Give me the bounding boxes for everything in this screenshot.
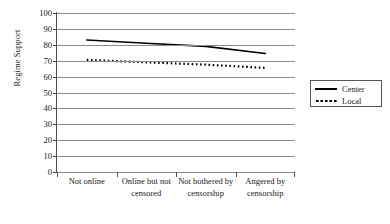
y-axis-tick-label: 90 [26,25,52,34]
legend-item: Center [314,83,381,94]
y-axis-tick [53,93,57,94]
x-axis-tick-label: Not bothered by censorship [176,176,236,199]
gridline [57,13,295,14]
x-axis-tick-label: Online but not censored [117,176,177,199]
y-axis-tick [53,45,57,46]
gridline [57,61,295,62]
y-axis-tick [53,61,57,62]
gridline [57,140,295,141]
y-axis-tick [53,124,57,125]
y-axis-tick-label: 30 [26,120,52,129]
legend-label: Local [338,96,361,106]
y-axis-tick [53,140,57,141]
y-axis-tick [53,13,57,14]
plot-area [57,13,295,172]
y-axis-tick-label: 20 [26,136,52,145]
y-axis-tick [53,156,57,157]
gridline [57,124,295,125]
series-line-center [87,40,266,54]
gridline [57,93,295,94]
chart-legend: CenterLocal [310,80,382,107]
x-axis-tick-label: Not online [57,176,117,188]
x-axis-tick-labels: Not onlineOnline but not censoredNot bot… [57,176,295,222]
y-axis-tick-label: 60 [26,72,52,81]
y-axis-title: Regime Support [12,0,22,118]
gridline [57,156,295,157]
legend-key-dotted-icon [314,96,338,106]
y-axis-tick-label: 0 [26,168,52,177]
legend-key-solid-icon [314,84,338,94]
y-axis-tick-label: 80 [26,41,52,50]
y-axis-tick [53,77,57,78]
y-axis-tick [53,108,57,109]
y-axis-tick-label: 10 [26,152,52,161]
y-axis-tick-label: 40 [26,104,52,113]
y-axis-tick-labels: 1009080706050403020100 [26,13,52,172]
gridline [57,77,295,78]
y-axis-tick-label: 50 [26,88,52,97]
legend-label: Center [338,84,365,94]
y-axis-tick-label: 70 [26,56,52,65]
gridline [57,45,295,46]
legend-item: Local [314,95,381,106]
regime-support-line-chart: Regime Support 1009080706050403020100 No… [0,0,390,224]
gridline [57,29,295,30]
y-axis-tick-label: 100 [26,9,52,18]
gridline [57,108,295,109]
y-axis-tick [53,29,57,30]
x-axis-tick-label: Angered by censorship [236,176,296,199]
